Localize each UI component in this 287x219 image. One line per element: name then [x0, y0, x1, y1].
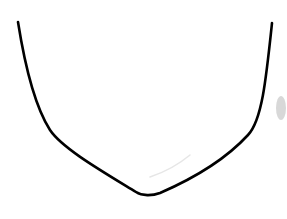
chin-curve: [18, 22, 272, 195]
gray-smudge: [276, 96, 286, 120]
faint-stroke: [150, 155, 190, 177]
line-drawing: [0, 0, 287, 219]
drawing-canvas: U-shaped chin/jaw outline line drawing: [0, 0, 287, 219]
